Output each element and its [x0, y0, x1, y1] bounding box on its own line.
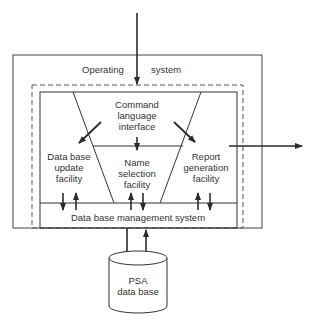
psa-system-diagram: Operating system Command language interf… [0, 0, 316, 322]
command-label-3: interface [119, 121, 155, 132]
arrow-to-update [79, 122, 101, 143]
db-label-2: data base [117, 286, 159, 297]
name-label-1: Name [124, 157, 149, 168]
name-label-3: facility [124, 179, 151, 190]
os-label-left: Operating [82, 64, 124, 75]
update-label-1: Data base [47, 151, 90, 162]
trapezoid-right-edge [160, 92, 201, 203]
name-label-2: selection [118, 168, 156, 179]
update-label-3: facility [56, 173, 83, 184]
command-label-2: language [117, 110, 156, 121]
os-label-right: system [151, 64, 181, 75]
db-label-1: PSA [128, 275, 148, 286]
command-label-1: Command [115, 99, 159, 110]
dbms-label: Data base management system [71, 212, 205, 223]
trapezoid-left-edge [73, 92, 114, 203]
report-label-2: generation [184, 162, 229, 173]
report-label-1: Report [192, 151, 221, 162]
report-label-3: facility [193, 173, 220, 184]
update-label-2: update [54, 162, 83, 173]
arrow-to-report [174, 122, 195, 142]
